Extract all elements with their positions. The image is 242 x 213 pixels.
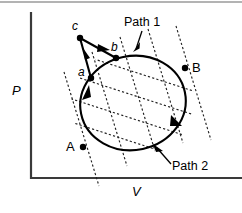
annotation-path-1: Path 1 — [124, 15, 160, 52]
point-label-a: a — [78, 65, 85, 79]
cycle-ellipse-curve — [71, 46, 194, 160]
point-marker-c — [77, 35, 83, 41]
point-marker-A — [80, 144, 86, 150]
point-marker-a — [88, 75, 94, 81]
point-label-B-upper: B — [192, 60, 201, 75]
segment-a-to-c-arrow — [83, 48, 90, 60]
segment-c-to-b-arrow — [97, 44, 110, 52]
point-marker-b — [113, 55, 119, 61]
volume-axis-label: V — [132, 184, 142, 199]
path-1-label: Path 1 — [124, 15, 160, 29]
path-2-label: Path 2 — [172, 159, 208, 173]
point-label-b: b — [111, 40, 118, 54]
pv-diagram-svg: P V — [0, 0, 242, 213]
annotation-path-2: Path 2 — [153, 144, 208, 173]
path-1-pointer-arrow — [133, 42, 140, 52]
axis-frame-lines — [31, 13, 242, 178]
adiabat-line — [120, 37, 155, 151]
figure-container: P V — [0, 0, 242, 213]
point-label-c: c — [72, 19, 78, 33]
pressure-axis-label: P — [12, 83, 21, 98]
point-label-A-upper: A — [66, 139, 75, 154]
point-marker-B — [182, 65, 188, 71]
